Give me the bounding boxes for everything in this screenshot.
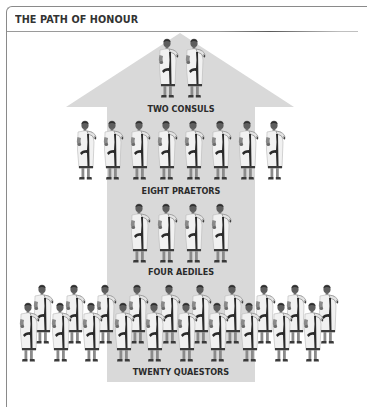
quaestor-figure-icon: [301, 302, 325, 364]
tier-label-aediles: FOUR AEDILES: [148, 267, 214, 277]
quaestor-figure-icon: [206, 302, 230, 364]
quaestor-figure-icon: [143, 302, 167, 364]
tier-label-praetors: EIGHT PRAETORS: [142, 186, 221, 196]
praetor-figure-icon: [101, 120, 125, 182]
tier-label-quaestors: TWENTY QUAESTORS: [133, 367, 229, 377]
praetor-figure-icon: [74, 120, 98, 182]
aedile-figure-icon: [155, 203, 179, 265]
praetor-figure-icon: [236, 120, 260, 182]
praetor-figure-icon: [182, 120, 206, 182]
quaestor-figure-icon: [175, 302, 199, 364]
aedile-figure-icon: [182, 203, 206, 265]
quaestor-figure-icon: [112, 302, 136, 364]
praetor-figure-icon: [155, 120, 179, 182]
praetor-figure-icon: [263, 120, 287, 182]
aedile-figure-icon: [209, 203, 233, 265]
consul-figure-icon: [183, 38, 207, 100]
quaestor-figure-icon: [80, 302, 104, 364]
quaestor-figure-icon: [17, 302, 41, 364]
praetor-figure-icon: [209, 120, 233, 182]
quaestor-figure-icon: [49, 302, 73, 364]
quaestor-figure-icon: [238, 302, 262, 364]
consul-figure-icon: [156, 38, 180, 100]
tier-label-consuls: TWO CONSULS: [147, 104, 214, 114]
quaestor-figure-icon: [270, 302, 294, 364]
praetor-figure-icon: [128, 120, 152, 182]
aedile-figure-icon: [128, 203, 152, 265]
